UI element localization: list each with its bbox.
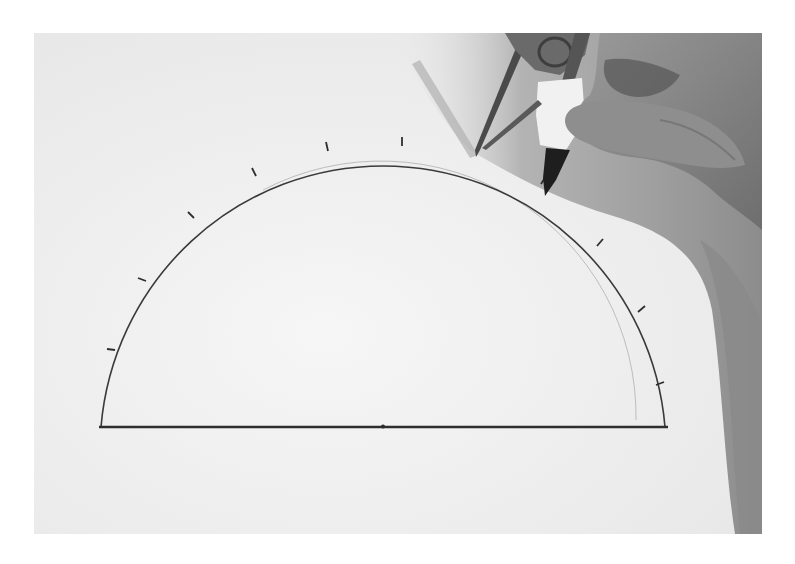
center-mark (381, 425, 385, 429)
scene (34, 33, 762, 534)
photograph: Grayscale photograph of a hand holding a… (34, 33, 762, 534)
